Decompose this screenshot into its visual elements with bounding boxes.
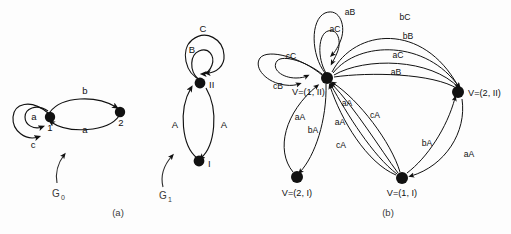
edge-label-g0-a-selfloop: a [31,111,37,122]
node-label-b-v1I: V=(1, I) [387,188,417,198]
edge-b-cC-selfloop [275,58,322,78]
node-b-v1II [321,72,333,84]
node-label-g0-1: 1 [47,122,52,133]
node-label-g0-2: 2 [118,117,123,128]
edge-label-g1-A-left: A [172,119,179,130]
edge-label-b-cB-selfloop: cB [273,81,283,91]
node-g1-II [195,78,206,89]
caption-panel-b: (b) [382,207,394,218]
edge-label-b-bB: bB [403,31,414,41]
pointer-arrow-g1 [162,156,172,187]
edge-label-g1-B: B [189,44,195,55]
edge-label-b-aB: aB [391,67,402,77]
edge-label-b-aC: aC [393,50,404,60]
figure-container: 1 2 a c b a G 0 I [0,0,511,234]
edge-label-b-bA-right: bA [422,138,433,148]
graph-product: V=(1, II) V=(2, II) V=(2, I) V=(1, I) aB… [258,7,501,198]
edge-label-b-bA-left: bA [308,125,319,135]
panel-a-svg: 1 2 a c b a G 0 I [0,0,260,234]
node-label-g1-I: I [208,158,211,169]
caption-panel-a: (a) [112,207,124,218]
edge-label-b-aA-left: aA [295,112,306,122]
edge-label-g1-C: C [200,23,207,34]
pointer-g0: G 0 [52,155,65,201]
node-label-b-v1II: V=(1, II) [292,87,325,97]
node-b-v2I [291,171,303,183]
node-g0-1 [45,112,55,122]
node-label-g1-II: II [209,79,214,90]
edge-label-g0-a: a [82,124,88,135]
edge-g1-a-left [183,88,197,158]
graph-name-g1: G [159,190,167,201]
node-label-b-v2II: V=(2, II) [468,88,501,98]
edge-label-b-aA-center-2: aA [335,117,346,127]
node-b-v1I [396,172,408,184]
edge-label-b-bC: bC [400,12,411,22]
edge-b-bC [332,38,458,86]
edge-b-bA-right [407,98,455,173]
graph-sub-g0: 0 [61,194,65,201]
node-b-v2II [452,86,464,98]
graph-name-g0: G [52,188,60,199]
edge-label-b-cC-selfloop: cC [286,51,297,61]
pointer-arrow-g0 [56,155,64,183]
edge-b-aB-selfloop [314,12,343,73]
graph-g1: II I C B A A [172,23,228,169]
edge-b-cA-center-2 [330,86,396,175]
node-label-b-v2I: V=(2, I) [282,188,312,198]
edge-label-b-aB-selfloop: aB [345,7,356,17]
graph-g0: 1 2 a c b a [13,85,125,150]
edge-label-g0-b: b [82,85,87,96]
edge-label-g1-A-right: A [221,119,228,130]
graph-sub-g1: 1 [168,196,172,203]
pointer-g1: G 1 [159,156,172,203]
edge-g1-a-right [201,88,214,158]
node-g0-2 [115,107,125,117]
edge-g0-b [50,99,116,112]
edge-label-b-aA-right: aA [464,149,475,159]
node-g1-I [194,156,205,167]
edge-label-b-aA-center-1: aA [342,98,353,108]
edge-label-b-aC-selfloop: aC [330,24,341,34]
edge-label-b-cA-center-1: cA [370,110,380,120]
edge-label-g0-c-selfloop: c [31,139,36,150]
panel-b-svg: V=(1, II) V=(2, II) V=(2, I) V=(1, I) aB… [255,0,511,234]
edge-b-aC-selfloop [320,31,339,73]
edge-label-b-cA-center-2: cA [336,140,346,150]
edge-b-aA-right [411,99,463,176]
